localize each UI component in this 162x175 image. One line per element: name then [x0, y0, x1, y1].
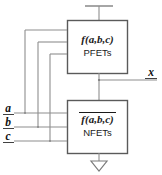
output-junction-dot [98, 79, 100, 81]
input-a-net: a [3, 30, 67, 115]
diagram-canvas: f(a,b,c) PFETs x f(a,b,c) NFETs [0, 0, 162, 175]
pulldown-network-block: f(a,b,c) NFETs [68, 101, 128, 154]
input-b-label: b [5, 116, 11, 128]
pfet-function-label: f(a,b,c) [81, 33, 113, 46]
input-c-net: c [3, 54, 67, 143]
nfet-function-label: f(a,b,c) [81, 113, 113, 126]
input-a-label: a [5, 102, 11, 114]
ground-triangle-icon [91, 161, 107, 171]
cmos-block-diagram: f(a,b,c) PFETs x f(a,b,c) NFETs [0, 0, 162, 175]
ground-rail-group [91, 153, 107, 171]
input-b-net: b [3, 42, 67, 129]
pfet-device-label: PFETs [84, 47, 112, 58]
nfet-device-label: NFETs [83, 127, 112, 138]
input-c-junction-dot [49, 140, 51, 142]
output-label-x: x [147, 66, 154, 78]
input-c-label: c [5, 130, 10, 142]
vdd-rail-group [85, 6, 113, 20]
input-a-junction-dot [24, 112, 26, 114]
input-b-junction-dot [37, 126, 39, 128]
pullup-network-block: f(a,b,c) PFETs [68, 21, 128, 74]
